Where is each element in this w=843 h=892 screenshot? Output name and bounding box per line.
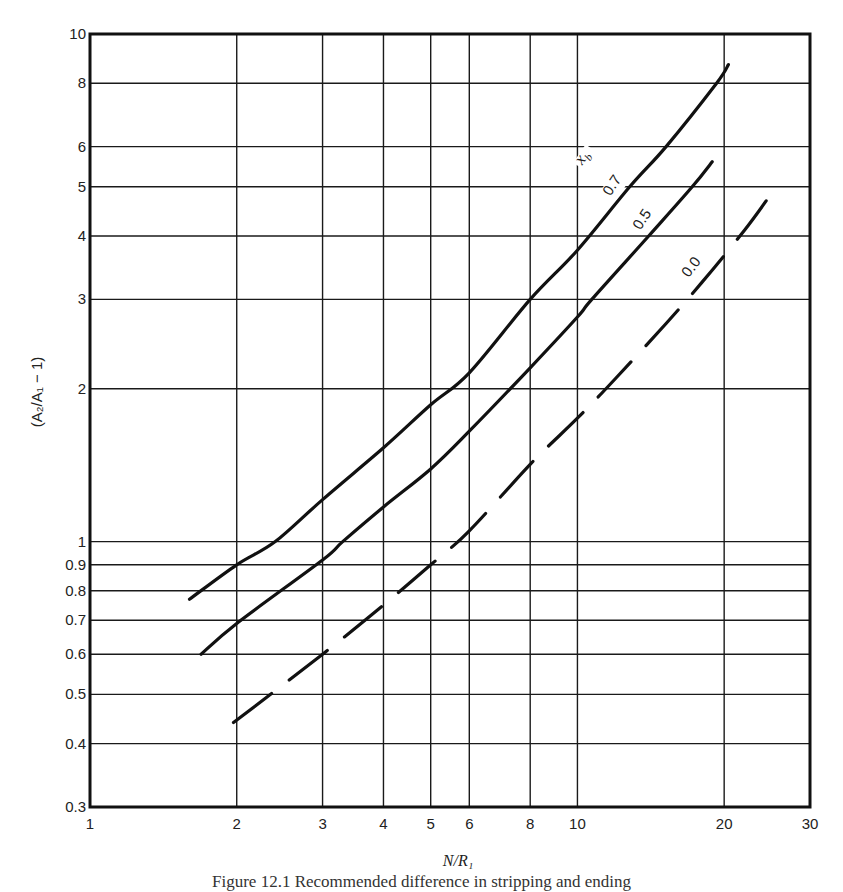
plot-frame bbox=[90, 34, 810, 807]
y-tick-label: 3 bbox=[78, 290, 86, 307]
y-tick-label: 1 bbox=[78, 533, 86, 550]
y-tick-label: 0.5 bbox=[65, 685, 86, 702]
y-tick-label: 8 bbox=[78, 74, 86, 91]
x-tick-label: 1 bbox=[86, 815, 94, 832]
y-axis-title: (A₂/A₁ − 1) bbox=[28, 357, 45, 428]
y-tick-label: 0.4 bbox=[65, 735, 86, 752]
x-tick-label: 10 bbox=[569, 815, 586, 832]
x-tick-label: 6 bbox=[465, 815, 473, 832]
y-tick-label: 0.3 bbox=[65, 798, 86, 815]
figure-caption: Figure 12.1 Recommended difference in st… bbox=[0, 872, 843, 892]
x-axis-title: N/R₁ bbox=[442, 852, 473, 869]
y-tick-label: 5 bbox=[78, 178, 86, 195]
x-tick-label: 5 bbox=[427, 815, 435, 832]
x-tick-label: 8 bbox=[526, 815, 534, 832]
grid bbox=[90, 34, 810, 807]
x-tick-label: 4 bbox=[379, 815, 387, 832]
x-tick-labels: 1234568102030 bbox=[86, 815, 819, 832]
y-tick-label: 10 bbox=[69, 25, 86, 42]
y-tick-label: 0.6 bbox=[65, 645, 86, 662]
y-tick-labels: 0.30.40.50.60.70.80.9123456810 bbox=[65, 25, 86, 815]
y-tick-label: 0.7 bbox=[65, 611, 86, 628]
y-tick-label: 2 bbox=[78, 380, 86, 397]
y-tick-label: 4 bbox=[78, 227, 86, 244]
x-tick-label: 2 bbox=[233, 815, 241, 832]
y-tick-label: 6 bbox=[78, 138, 86, 155]
x-tick-label: 30 bbox=[802, 815, 819, 832]
curves bbox=[190, 65, 769, 723]
x-tick-label: 20 bbox=[716, 815, 733, 832]
plot-border bbox=[90, 34, 810, 807]
y-tick-label: 0.9 bbox=[65, 556, 86, 573]
x-tick-label: 3 bbox=[318, 815, 326, 832]
y-tick-label: 0.8 bbox=[65, 582, 86, 599]
series-line-0.7 bbox=[190, 65, 729, 600]
